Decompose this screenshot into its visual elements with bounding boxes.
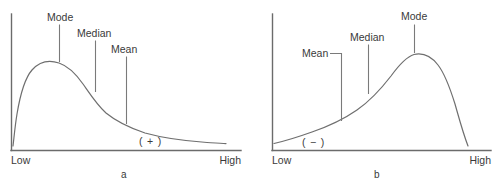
panel-b: Mean Median Mode ( − ) Low High: [272, 10, 491, 166]
panel-a-axis-low-label: Low: [11, 154, 31, 166]
panel-b-curve: [274, 54, 468, 146]
panel-a: Mode Median Mean ( + ) Low High: [11, 11, 241, 166]
figure-container: Mode Median Mean ( + ) Low High: [0, 0, 501, 187]
panel-a-marker-mean: Mean: [111, 43, 137, 124]
panel-b-mode-label: Mode: [401, 10, 427, 22]
panel-b-marker-mean: Mean: [302, 47, 342, 121]
panel-b-marker-mode: Mode: [401, 10, 427, 53]
panel-b-axis-low-label: Low: [272, 154, 292, 166]
panel-b-skew-sign: ( − ): [302, 136, 325, 148]
panel-a-median-label: Median: [77, 27, 112, 39]
panel-a-marker-mode: Mode: [47, 11, 73, 62]
panel-a-curve: [13, 61, 226, 146]
panel-a-skew-sign: ( + ): [139, 135, 162, 147]
panel-a-mean-label: Mean: [111, 43, 137, 55]
panel-b-caption: b: [374, 169, 380, 180]
panel-a-caption: a: [121, 169, 127, 180]
panel-b-marker-median: Median: [350, 31, 385, 94]
skewed-distributions-figure: Mode Median Mean ( + ) Low High: [0, 0, 501, 187]
panel-b-median-label: Median: [350, 31, 385, 43]
panel-b-axis-high-label: High: [469, 154, 491, 166]
panel-a-mode-label: Mode: [47, 11, 73, 23]
panel-b-mean-leader: [330, 54, 342, 122]
panel-b-mean-label: Mean: [302, 47, 328, 59]
panel-a-axis-high-label: High: [219, 154, 241, 166]
